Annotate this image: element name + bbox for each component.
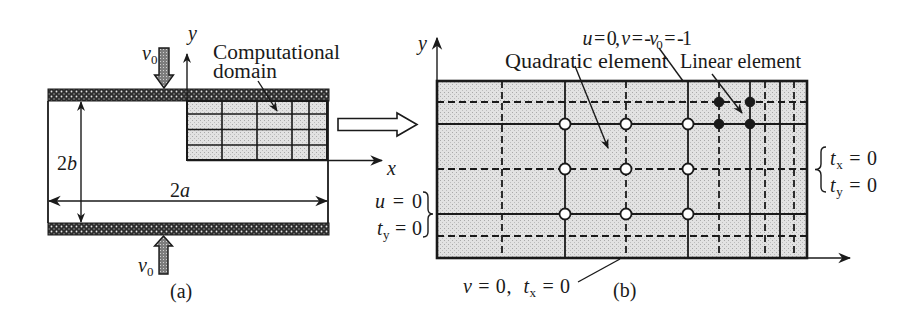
- computational-domain-mesh: [187, 101, 327, 160]
- subscript: y: [836, 184, 843, 199]
- y-axis-label-b: y: [416, 32, 427, 55]
- open-node: [621, 119, 632, 130]
- solid-node: [714, 119, 724, 129]
- open-node: [621, 164, 632, 175]
- x-axis-label-a: x: [386, 157, 396, 179]
- open-node: [683, 119, 694, 130]
- bc-text: = -: [628, 27, 651, 49]
- v0-subscript: 0: [147, 264, 154, 279]
- right-bc-brace-icon: [815, 147, 826, 192]
- left-bc-line1: u = 0: [375, 190, 422, 212]
- panel-a-caption: (a): [170, 280, 192, 303]
- subscript: x: [530, 285, 537, 300]
- panel-a: y x v0 v0 2b 2a Computational domain (a): [48, 22, 396, 303]
- open-node: [560, 119, 571, 130]
- open-node: [560, 209, 571, 220]
- open-node: [621, 209, 632, 220]
- v0-label-bottom: v0: [138, 254, 153, 279]
- top-boundary-condition: u = 0, v = -v0 = -1: [560, 27, 708, 52]
- v0-label-top: v0: [142, 42, 157, 67]
- y-axis-label-a: y: [186, 22, 197, 45]
- solid-node: [745, 119, 755, 129]
- suction-arrow-bottom-icon: [155, 236, 173, 274]
- bc-text: = 0: [537, 275, 570, 297]
- subscript: x: [836, 157, 843, 172]
- u-symbol: u: [375, 190, 385, 212]
- open-node: [683, 209, 694, 220]
- open-node: [560, 164, 571, 175]
- v0-symbol: v: [142, 42, 151, 64]
- coefficient: 2: [57, 152, 67, 174]
- variable: b: [67, 152, 77, 174]
- panel-b-caption: (b): [613, 279, 636, 302]
- bc-text: = 0: [844, 147, 877, 169]
- v0-symbol: v: [138, 254, 147, 276]
- bc-text: = 0: [390, 217, 422, 239]
- coefficient: 2: [170, 179, 180, 201]
- v0-subscript: 0: [151, 52, 158, 67]
- bottom-boundary-condition: v = 0, tx = 0: [463, 275, 570, 300]
- height-dimension-label: 2b: [57, 152, 77, 174]
- left-bc-brace-icon: [423, 192, 433, 237]
- left-bc-line2: ty = 0: [377, 217, 422, 242]
- t-symbol: t: [523, 275, 529, 297]
- right-bc-line1: tx = 0: [830, 147, 877, 172]
- zoom-in-arrow-icon: [338, 113, 417, 136]
- bc-text: = 0: [844, 174, 877, 196]
- right-bc-line2: ty = 0: [830, 174, 877, 199]
- bc-text: = 0,: [591, 27, 623, 49]
- open-node: [683, 164, 694, 175]
- bottom-porous-wall: [48, 223, 329, 235]
- t-symbol: t: [830, 147, 836, 169]
- t-symbol: t: [830, 174, 836, 196]
- bc-text: = -1: [661, 27, 692, 49]
- top-porous-wall: [48, 89, 329, 101]
- diagram-canvas: y x v0 v0 2b 2a Computational domain (a): [0, 0, 914, 322]
- figure: y x v0 v0 2b 2a Computational domain (a): [0, 0, 914, 322]
- linear-element-label: Linear element: [680, 50, 801, 72]
- variable: a: [180, 179, 190, 201]
- panel-b: y u = 0, v = -v0 = -1 Quadratic element …: [375, 27, 877, 302]
- bc-text: = 0,: [473, 275, 523, 297]
- length-dimension-label: 2a: [170, 179, 190, 201]
- quadratic-element-label: Quadratic element: [505, 50, 668, 72]
- bc-text: = 0: [386, 190, 422, 212]
- solid-node: [745, 97, 755, 107]
- v-symbol: v: [463, 275, 472, 297]
- solid-node: [714, 97, 724, 107]
- domain-label-line2: domain: [213, 60, 277, 82]
